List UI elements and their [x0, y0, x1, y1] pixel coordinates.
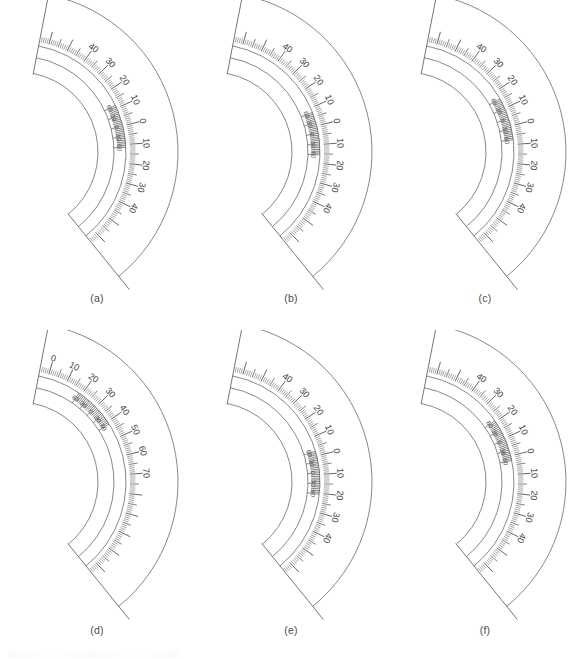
- vernier-number: 0: [113, 125, 121, 131]
- main-scale-number: 40: [281, 371, 295, 385]
- main-scale-number: 0: [525, 117, 536, 124]
- protractor-panel-c: 40302010010203040603003060(c): [388, 0, 582, 330]
- scale-arcs: [227, 0, 372, 276]
- main-scale-number: 0: [50, 353, 58, 364]
- main-scale-number: 10: [335, 138, 346, 149]
- page-edge-artifact: [8, 652, 178, 658]
- vernier-number: 60: [105, 104, 115, 114]
- main-scale-number: 20: [118, 73, 132, 87]
- panel-caption-f: (f): [388, 624, 582, 636]
- scale-arcs: [421, 0, 566, 276]
- vernier-number: 30: [499, 447, 508, 456]
- main-scale-number: 10: [517, 93, 530, 106]
- main-scale-number: 10: [323, 93, 336, 106]
- vernier-number: 0: [499, 118, 507, 124]
- vernier-number: 60: [309, 490, 317, 498]
- main-scale-number: 0: [525, 447, 536, 454]
- main-scale-number: 20: [87, 371, 101, 385]
- vernier-number: 60: [302, 110, 311, 119]
- main-scale-number: 10: [517, 423, 530, 436]
- main-scale-number: 40: [281, 41, 295, 55]
- vernier-number: 60: [99, 422, 109, 432]
- main-scale-number: 70: [141, 468, 152, 479]
- figure-panel-grid: 40302010010203040603003060(a)40302010010…: [0, 0, 582, 659]
- main-scale-number: 10: [68, 360, 81, 373]
- sector-edges: [33, 0, 129, 290]
- main-scale-number: 10: [335, 468, 346, 479]
- main-scale-number: 30: [135, 181, 147, 193]
- panel-caption-b: (b): [194, 292, 388, 304]
- protractor-panel-e: 40302010010203040603003060(e): [194, 330, 388, 659]
- main-scale-number: 20: [334, 160, 345, 171]
- main-scale-number: 20: [528, 160, 539, 171]
- vernier-number: 60: [310, 151, 317, 159]
- sector-edges: [227, 330, 323, 620]
- main-scale-number: 20: [312, 403, 326, 417]
- sector-edges: [33, 330, 129, 620]
- vernier-number: 30: [310, 141, 318, 149]
- vernier-number: 30: [501, 126, 509, 135]
- main-scale-number: 30: [329, 511, 341, 523]
- main-scale-number: 0: [331, 117, 342, 124]
- sector-edges: [421, 0, 517, 290]
- main-scale-number: 10: [141, 138, 152, 149]
- vernier-number: 30: [306, 120, 315, 129]
- panel-caption-a: (a): [0, 292, 194, 304]
- main-scale-number: 10: [129, 93, 142, 106]
- vernier-number: 60: [305, 449, 314, 458]
- panel-caption-e: (e): [194, 624, 388, 636]
- main-scale-number: 40: [475, 371, 489, 385]
- sector-edges: [421, 330, 517, 620]
- protractor-panel-b: 40302010010203040603003060(b): [194, 0, 388, 330]
- main-scale-number: 40: [475, 41, 489, 55]
- main-scale-number: 20: [312, 73, 326, 87]
- main-scale-number: 20: [140, 160, 151, 171]
- main-scale-number: 40: [127, 202, 140, 215]
- main-scale-number: 40: [321, 532, 334, 545]
- main-scale-number: 40: [515, 532, 528, 545]
- vernier-number: 30: [109, 113, 118, 122]
- scale-arcs: [33, 330, 178, 606]
- main-scale-number: 50: [129, 423, 142, 436]
- scale-arcs: [421, 330, 566, 606]
- main-scale-ticks: [41, 362, 142, 572]
- main-scale-number: 20: [506, 403, 520, 417]
- scale-arcs: [33, 0, 178, 276]
- main-scale-number: 20: [528, 490, 539, 501]
- main-scale-number: 30: [329, 181, 341, 193]
- vernier-number: 60: [503, 137, 511, 145]
- main-scale-number: 40: [118, 403, 132, 417]
- main-scale-number: 0: [331, 447, 342, 454]
- vernier-scale-labels: 603003060: [105, 104, 123, 152]
- panel-caption-c: (c): [388, 292, 582, 304]
- vernier-number: 60: [116, 144, 123, 152]
- main-scale-number: 30: [523, 181, 535, 193]
- main-scale-number: 0: [137, 117, 148, 124]
- main-scale-number: 20: [506, 73, 520, 87]
- protractor-panel-f: 40302010010203040603003060(f): [388, 330, 582, 659]
- scale-arcs: [227, 330, 372, 606]
- main-scale-number: 60: [137, 445, 149, 457]
- main-scale-number: 10: [529, 138, 540, 149]
- main-scale-number: 20: [334, 490, 345, 501]
- vernier-number: 30: [310, 480, 317, 488]
- main-scale-number: 10: [323, 423, 336, 436]
- vernier-scale-labels: 603003060: [305, 449, 317, 498]
- protractor-panel-d: 010203040506070603003060(d): [0, 330, 194, 659]
- main-scale-number: 30: [523, 511, 535, 523]
- main-scale-number: 40: [321, 202, 334, 215]
- vernier-number: 60: [502, 458, 510, 467]
- vernier-number: 30: [495, 106, 504, 116]
- protractor-panel-a: 40302010010203040603003060(a): [0, 0, 194, 330]
- main-scale-number: 40: [515, 202, 528, 215]
- main-scale-number: 10: [529, 468, 540, 479]
- panel-caption-d: (d): [0, 624, 194, 636]
- main-scale-number: 40: [87, 41, 101, 55]
